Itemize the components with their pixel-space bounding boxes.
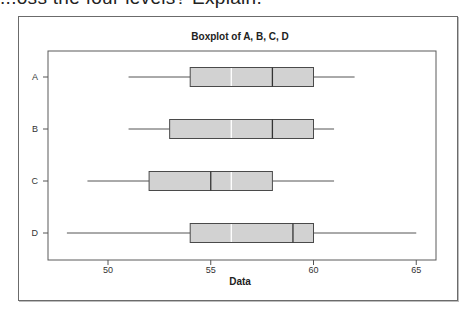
iqr-box (170, 120, 314, 139)
box-a (129, 68, 355, 87)
x-axis-label: Data (229, 276, 251, 287)
y-tick-label: C (32, 176, 39, 186)
y-tick-label: D (32, 228, 39, 238)
boxes (67, 68, 416, 243)
boxplot-chart: Boxplot of A, B, C, D ABCD 50556065 Data (0, 0, 474, 315)
y-tick-label: A (32, 72, 38, 82)
box-d (67, 224, 416, 243)
x-tick-label: 50 (103, 265, 113, 275)
box-b (129, 120, 334, 139)
chart-title: Boxplot of A, B, C, D (191, 31, 288, 42)
y-axis: ABCD (32, 72, 49, 238)
iqr-box (190, 224, 313, 243)
x-tick-label: 60 (308, 265, 318, 275)
box-c (87, 172, 334, 191)
x-axis: 50556065 (103, 260, 421, 275)
x-tick-label: 65 (411, 265, 421, 275)
x-tick-label: 55 (206, 265, 216, 275)
iqr-box (190, 68, 313, 87)
y-tick-label: B (32, 124, 38, 134)
